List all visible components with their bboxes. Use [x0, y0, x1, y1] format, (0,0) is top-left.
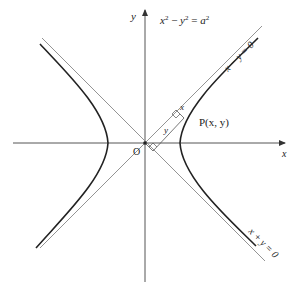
right-angle-marker-top: [172, 110, 180, 118]
hyperbola-left-branch: [36, 44, 108, 248]
point-p-label: P(x, y): [199, 116, 229, 129]
asymptote-x-plus-y: [42, 38, 265, 261]
origin-point: [143, 141, 147, 145]
distance-y-label: y: [163, 125, 168, 135]
parallel-segment: [153, 118, 184, 151]
hyperbola-diagram: y x O x2 − y2 = a2 P(x, y) x y x − y = 0…: [0, 0, 298, 292]
x-axis-label: x: [281, 148, 287, 159]
asymptote-label-x-minus-y: x − y = 0: [221, 39, 256, 74]
origin-label: O: [133, 146, 140, 157]
asymptote-label-x-plus-y: x + y = 0: [246, 225, 281, 260]
y-axis-label: y: [130, 10, 136, 22]
equation-label: x2 − y2 = a2: [159, 14, 210, 26]
distance-x-label: x: [179, 102, 184, 112]
